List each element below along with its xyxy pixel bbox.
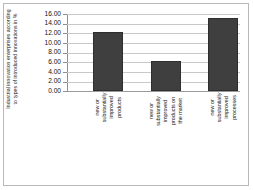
- chart-screenshot: Industrial innovation enterprises accord…: [0, 0, 253, 190]
- y-axis-title: Industrial innovation enterprises accord…: [1, 9, 23, 109]
- y-tick-label: 12.00: [24, 30, 61, 37]
- x-tick-label-text: new or substantially improved processes: [209, 92, 238, 122]
- bar-new-or-substantially-improved-products-on-the-market[interactable]: [151, 61, 181, 91]
- y-tick-label: 0.00: [24, 88, 61, 95]
- x-tick-label-text: new or substantially improved products: [94, 92, 123, 122]
- y-tick-label: 8.00: [24, 49, 61, 56]
- y-tick-label: 2.00: [24, 78, 61, 85]
- x-tick-label-text: new or substantially improved products o…: [148, 96, 184, 126]
- x-axis-category-labels: new or substantially improved products n…: [67, 93, 240, 185]
- bar-new-or-substantially-improved-products[interactable]: [93, 32, 123, 91]
- x-tick-label-2: new or substantially improved processes: [208, 93, 238, 183]
- y-tick-label: 6.00: [24, 59, 61, 66]
- x-tick-label-1: new or substantially improved products o…: [151, 93, 181, 183]
- x-tick-label-0: new or substantially improved products: [93, 93, 123, 183]
- y-tick-label: 16.00: [24, 11, 61, 18]
- plot-area: [67, 14, 240, 91]
- y-axis-tick-labels: 16.00 14.00 12.00 10.00 8.00 6.00 4.00 2…: [24, 0, 61, 190]
- y-tick-label: 10.00: [24, 40, 61, 47]
- y-tick-label: 4.00: [24, 69, 61, 76]
- y-tick-label: 14.00: [24, 20, 61, 27]
- gridline: [67, 14, 240, 15]
- bar-new-or-substantially-improved-processes[interactable]: [208, 18, 238, 91]
